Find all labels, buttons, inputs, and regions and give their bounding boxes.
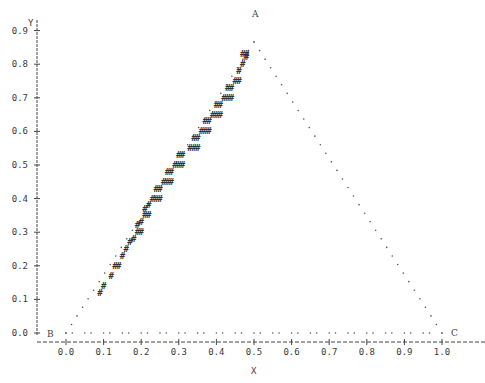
data-point xyxy=(358,204,360,206)
data-point xyxy=(132,230,134,232)
data-point xyxy=(353,195,355,197)
hash-marker: # xyxy=(116,261,122,271)
hash-marker: # xyxy=(229,93,235,103)
data-point xyxy=(397,264,399,266)
data-point xyxy=(310,332,312,334)
data-point xyxy=(414,289,416,291)
data-point xyxy=(331,161,333,163)
data-point xyxy=(364,212,366,214)
data-point xyxy=(241,332,243,334)
y-tick-label: 0.6 xyxy=(12,126,28,136)
hash-marker: # xyxy=(244,49,250,59)
y-tick-label: 0.8 xyxy=(12,59,28,69)
data-point xyxy=(404,332,406,334)
data-point xyxy=(84,332,86,334)
y-tick-label: 0.7 xyxy=(12,93,28,103)
data-point xyxy=(104,272,106,274)
data-point xyxy=(82,307,84,309)
y-tick-label: 0.1 xyxy=(12,294,28,304)
data-point xyxy=(410,332,412,334)
y-tick-label: 0.2 xyxy=(12,261,28,271)
x-tick-label: 1.0 xyxy=(434,347,450,357)
data-point xyxy=(140,332,142,334)
x-tick-label: 0.5 xyxy=(246,347,262,357)
data-point xyxy=(297,332,299,334)
data-point xyxy=(342,178,344,180)
x-tick-label: 0.8 xyxy=(359,347,375,357)
hash-marker: # xyxy=(195,143,201,153)
data-point xyxy=(347,187,349,189)
data-point xyxy=(391,332,393,334)
data-point xyxy=(336,170,338,172)
data-point xyxy=(90,332,92,334)
x-axis-label: X xyxy=(251,366,257,376)
hash-marker: # xyxy=(101,281,107,291)
data-point xyxy=(314,135,316,137)
data-point xyxy=(429,332,431,334)
data-point xyxy=(408,281,410,283)
data-point xyxy=(372,332,374,334)
x-tick-label: 0.3 xyxy=(171,347,187,357)
data-point xyxy=(375,230,377,232)
hash-marker: # xyxy=(169,177,175,187)
data-point xyxy=(347,332,349,334)
data-point xyxy=(178,332,180,334)
data-point xyxy=(165,332,167,334)
hash-marker: # xyxy=(157,194,163,204)
vertex-label-c: C xyxy=(451,328,458,338)
data-point xyxy=(128,332,130,334)
hash-marker: # xyxy=(180,160,186,170)
vertex-labels: ABC xyxy=(47,9,458,339)
data-point xyxy=(259,332,261,334)
y-tick-label: 0.5 xyxy=(12,160,28,170)
data-point xyxy=(303,118,305,120)
data-point xyxy=(419,298,421,300)
data-point xyxy=(430,315,432,317)
data-point xyxy=(281,84,283,86)
data-point xyxy=(422,332,424,334)
data-point xyxy=(369,221,371,223)
x-tick-label: 0.2 xyxy=(133,347,149,357)
data-point xyxy=(325,152,327,154)
data-point xyxy=(286,93,288,95)
data-point xyxy=(270,67,272,69)
data-point xyxy=(328,332,330,334)
data-point xyxy=(308,127,310,129)
data-point xyxy=(122,332,124,334)
data-point xyxy=(222,332,224,334)
x-tick-label: 0.4 xyxy=(208,347,224,357)
data-point xyxy=(71,332,73,334)
data-point xyxy=(385,332,387,334)
x-tick-label: 0.1 xyxy=(95,347,111,357)
x-tick-label: 0.7 xyxy=(321,347,337,357)
hash-marker: # xyxy=(206,126,212,136)
data-point xyxy=(278,332,280,334)
data-point xyxy=(115,255,117,257)
x-tick-label: 0.6 xyxy=(283,347,299,357)
data-point xyxy=(87,298,89,300)
data-point xyxy=(441,332,443,334)
y-tick-label: 0.3 xyxy=(12,227,28,237)
data-point xyxy=(272,332,274,334)
x-tick-label: 0.9 xyxy=(396,347,412,357)
triangle-edge-dots xyxy=(65,41,443,334)
x-axis: 0.00.10.20.30.40.50.60.70.80.91.0 xyxy=(37,339,485,357)
data-point xyxy=(109,332,111,334)
hash-marker: # xyxy=(236,76,242,86)
data-point xyxy=(253,41,255,43)
data-point xyxy=(436,324,438,326)
data-point xyxy=(320,144,322,146)
vertex-label-b: B xyxy=(47,329,54,339)
data-point xyxy=(391,255,393,257)
data-point xyxy=(159,332,161,334)
vertex-label-a: A xyxy=(251,9,259,19)
data-point xyxy=(253,332,255,334)
data-point xyxy=(216,332,218,334)
y-tick-label: 0.4 xyxy=(12,194,28,204)
data-point xyxy=(98,281,100,283)
data-point xyxy=(65,332,67,334)
data-point xyxy=(109,264,111,266)
data-point xyxy=(353,332,355,334)
data-point xyxy=(292,101,294,103)
hash-band-series: ########################################… xyxy=(97,49,250,298)
